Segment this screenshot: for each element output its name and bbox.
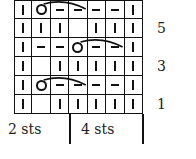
knit-symbol-icon <box>59 99 61 109</box>
chart-cell <box>106 57 124 76</box>
decrease-arc-icon <box>14 76 143 95</box>
chart-cell <box>69 57 87 76</box>
chart-cell <box>125 95 143 114</box>
repeat-end-line <box>142 114 144 144</box>
chart-cell <box>51 19 69 38</box>
row-label-3: 3 <box>157 58 166 74</box>
knit-symbol-icon <box>59 23 61 33</box>
knit-symbol-icon <box>77 61 79 71</box>
repeat-divider <box>69 114 71 144</box>
decrease-arc-icon <box>14 0 143 19</box>
knit-symbol-icon <box>114 61 116 71</box>
stitch-chart-grid <box>14 0 143 114</box>
chart-row-1 <box>14 95 143 114</box>
chart-cell <box>14 95 32 114</box>
chart-row-6 <box>14 0 143 19</box>
chart-cell <box>32 19 50 38</box>
chart-row-3 <box>14 57 143 76</box>
chart-cell <box>69 95 87 114</box>
chart-cell <box>32 95 50 114</box>
chart-cell <box>125 57 143 76</box>
knit-symbol-icon <box>95 99 97 109</box>
chart-cell <box>14 19 32 38</box>
knit-symbol-icon <box>59 61 61 71</box>
decrease-arc-icon <box>14 38 143 57</box>
chart-cell <box>88 95 106 114</box>
knit-symbol-icon <box>114 99 116 109</box>
chart-cell <box>51 57 69 76</box>
knit-symbol-icon <box>114 23 116 33</box>
knit-symbol-icon <box>22 99 24 109</box>
repeat-label-4sts: 4 sts <box>81 121 114 137</box>
knit-symbol-icon <box>132 99 134 109</box>
chart-cell <box>51 95 69 114</box>
knit-symbol-icon <box>40 23 42 33</box>
knit-symbol-icon <box>22 23 24 33</box>
row-label-5: 5 <box>157 20 166 36</box>
knit-symbol-icon <box>95 61 97 71</box>
chart-cell <box>106 19 124 38</box>
chart-cell <box>88 19 106 38</box>
knit-symbol-icon <box>95 23 97 33</box>
chart-cell <box>88 57 106 76</box>
knit-symbol-icon <box>77 99 79 109</box>
chart-cell <box>32 57 50 76</box>
chart-cell <box>106 95 124 114</box>
chart-cell <box>125 19 143 38</box>
chart-row-4 <box>14 38 143 57</box>
chart-row-5 <box>14 19 143 38</box>
chart-cell <box>14 57 32 76</box>
knit-symbol-icon <box>132 61 134 71</box>
repeat-label-2sts: 2 sts <box>8 121 41 137</box>
knit-symbol-icon <box>22 61 24 71</box>
row-label-1: 1 <box>157 96 166 112</box>
chart-cell <box>69 19 87 38</box>
chart-row-2 <box>14 76 143 95</box>
knit-symbol-icon <box>132 23 134 33</box>
